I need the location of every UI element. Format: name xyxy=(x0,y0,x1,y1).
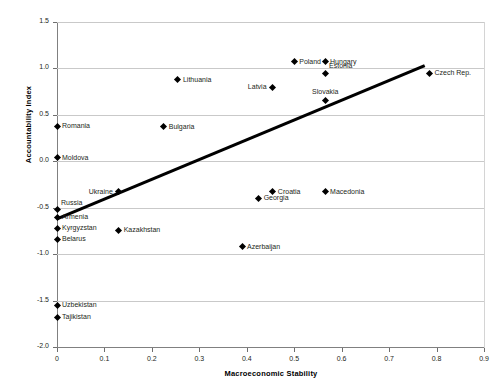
x-tick-mark xyxy=(342,348,343,352)
gridline-horizontal xyxy=(57,22,484,23)
data-point-label: Armenia xyxy=(62,213,88,221)
data-point-label: Slovakia xyxy=(312,88,338,96)
data-point-marker xyxy=(322,188,329,195)
data-point-marker xyxy=(53,236,60,243)
data-point-marker xyxy=(53,154,60,161)
data-point-label: Czech Rep. xyxy=(434,69,471,77)
x-tick-mark xyxy=(484,348,485,352)
data-point-marker xyxy=(53,213,60,220)
data-point-label: Estonia xyxy=(329,62,352,70)
data-point-marker xyxy=(255,195,262,202)
data-point-label: Moldova xyxy=(62,154,88,162)
gridline-horizontal xyxy=(57,161,484,162)
y-tick-mark xyxy=(53,161,57,162)
y-tick-label: -0.5 xyxy=(19,203,49,210)
x-tick-mark xyxy=(57,348,58,352)
y-tick-label: 1.5 xyxy=(19,17,49,24)
data-point-label: Latvia xyxy=(248,83,267,91)
trendline xyxy=(0,0,497,384)
data-point-marker xyxy=(322,58,329,65)
x-tick-mark xyxy=(247,348,248,352)
gridline-horizontal xyxy=(57,68,484,69)
y-tick-mark xyxy=(53,22,57,23)
y-tick-label: -1.5 xyxy=(19,296,49,303)
data-point-label: Kazakhstan xyxy=(124,226,161,234)
gridline-horizontal xyxy=(57,301,484,302)
x-tick-mark xyxy=(152,348,153,352)
data-point-marker xyxy=(115,188,122,195)
data-point-label: Ukraine xyxy=(89,188,113,196)
x-tick-mark xyxy=(294,348,295,352)
y-tick-label: 0.5 xyxy=(19,110,49,117)
data-point-marker xyxy=(53,302,60,309)
data-point-marker xyxy=(53,122,60,129)
y-tick-mark xyxy=(53,115,57,116)
data-point-marker xyxy=(322,70,329,77)
data-point-marker xyxy=(53,206,60,213)
gridline-horizontal xyxy=(57,208,484,209)
data-point-label: Belarus xyxy=(62,235,86,243)
x-tick-label: 0.4 xyxy=(232,355,262,362)
x-tick-label: 0.1 xyxy=(89,355,119,362)
data-point-label: Azerbaijan xyxy=(247,243,280,251)
x-axis-line xyxy=(57,347,485,348)
data-point-marker xyxy=(160,123,167,130)
x-tick-label: 0.3 xyxy=(184,355,214,362)
data-point-marker xyxy=(115,226,122,233)
data-point-label: Kyrgyzstan xyxy=(62,224,97,232)
x-tick-label: 0 xyxy=(42,355,72,362)
x-tick-mark xyxy=(437,348,438,352)
y-tick-label: -1.0 xyxy=(19,249,49,256)
scatter-chart: Accountability Index Macroeconomic Stabi… xyxy=(0,0,497,384)
y-tick-label: 1.0 xyxy=(19,63,49,70)
data-point-label: Macedonia xyxy=(330,188,364,196)
plot-right-edge xyxy=(484,22,485,348)
y-tick-label: -2.0 xyxy=(19,342,49,349)
x-tick-label: 0.6 xyxy=(327,355,357,362)
data-point-marker xyxy=(53,225,60,232)
data-point-marker xyxy=(238,243,245,250)
data-point-marker xyxy=(322,96,329,103)
data-point-label: Tajikistan xyxy=(62,313,91,321)
data-point-marker xyxy=(269,83,276,90)
x-tick-mark xyxy=(389,348,390,352)
data-point-marker xyxy=(426,70,433,77)
data-point-label: Poland xyxy=(299,58,321,66)
y-tick-label: 0.0 xyxy=(19,156,49,163)
data-point-marker xyxy=(174,76,181,83)
data-point-label: Romania xyxy=(62,122,90,130)
gridline-horizontal xyxy=(57,115,484,116)
x-tick-label: 0.7 xyxy=(374,355,404,362)
data-point-marker xyxy=(53,314,60,321)
y-tick-mark xyxy=(53,68,57,69)
x-axis-title: Macroeconomic Stability xyxy=(57,369,485,378)
x-tick-label: 0.5 xyxy=(279,355,309,362)
data-point-marker xyxy=(291,58,298,65)
x-tick-mark xyxy=(104,348,105,352)
x-tick-label: 0.8 xyxy=(422,355,452,362)
x-tick-label: 0.9 xyxy=(469,355,497,362)
data-point-label: Georgia xyxy=(264,194,289,202)
y-axis-line xyxy=(57,22,58,348)
x-tick-label: 0.2 xyxy=(137,355,167,362)
data-point-label: Bulgaria xyxy=(169,123,195,131)
gridline-horizontal xyxy=(57,254,484,255)
y-tick-mark xyxy=(53,254,57,255)
data-point-label: Lithuania xyxy=(183,76,211,84)
data-point-label: Russia xyxy=(61,199,82,207)
x-tick-mark xyxy=(199,348,200,352)
data-point-label: Uzbekistan xyxy=(62,301,97,309)
